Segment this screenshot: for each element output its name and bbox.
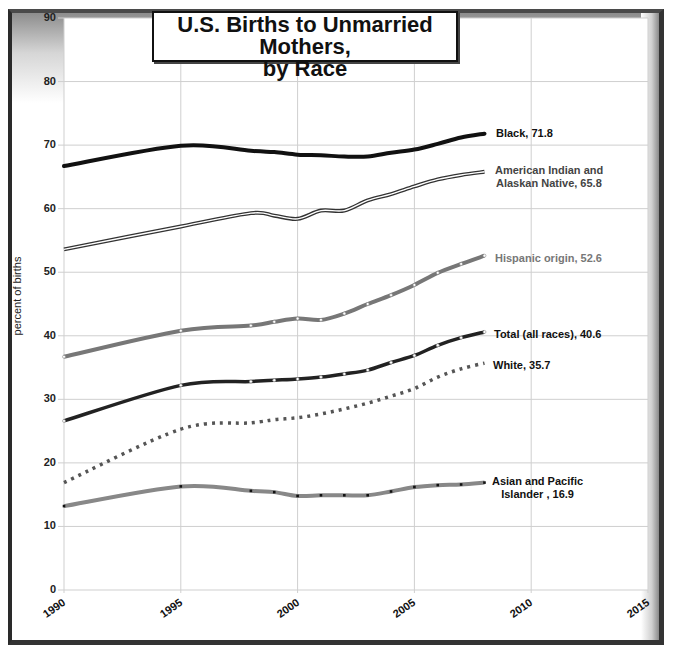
data-point [436, 484, 439, 487]
series-label-black: Black, 71.8 [496, 127, 553, 140]
data-point [320, 494, 323, 497]
y-tick-label: 20 [30, 456, 56, 468]
data-point [343, 372, 346, 375]
data-point [413, 354, 416, 357]
data-point [483, 481, 486, 484]
series-label-asian-line-1: Asian and Pacific [492, 475, 583, 488]
series-label-white: White, 35.7 [493, 359, 550, 372]
data-point [483, 330, 486, 333]
data-point [343, 312, 346, 315]
chart-title: U.S. Births to Unmarried Mothers, by Rac… [152, 11, 458, 62]
chart-title-line-1: U.S. Births to Unmarried Mothers, [154, 14, 456, 58]
y-tick-label: 40 [30, 329, 56, 341]
data-point [413, 486, 416, 489]
y-tick-label: 10 [30, 519, 56, 531]
data-point [436, 271, 439, 274]
data-point [390, 361, 393, 364]
series-label-american-indian-line-1: American Indian and [495, 164, 603, 177]
data-point [390, 294, 393, 297]
data-point [460, 262, 463, 265]
data-point [413, 283, 416, 286]
series-label-total: Total (all races), 40.6 [494, 328, 601, 341]
series-label-hispanic: Hispanic origin, 52.6 [495, 252, 602, 265]
data-point [366, 494, 369, 497]
data-point [180, 485, 183, 488]
data-point [250, 490, 253, 493]
data-point [273, 320, 276, 323]
data-point [249, 380, 252, 383]
y-tick-label: 70 [30, 138, 56, 150]
y-tick-label: 90 [30, 11, 56, 23]
chart-title-line-2: by Race [154, 58, 456, 80]
data-point [63, 419, 66, 422]
y-tick-label: 60 [30, 202, 56, 214]
data-point [296, 377, 299, 380]
data-point [390, 490, 393, 493]
data-point [273, 491, 276, 494]
data-point [296, 317, 299, 320]
y-axis-label: percent of births [11, 257, 23, 336]
gridlines [58, 18, 648, 593]
y-tick-label: 80 [30, 75, 56, 87]
y-tick-label: 50 [30, 265, 56, 277]
data-point [179, 329, 182, 332]
data-point [343, 494, 346, 497]
series-label-asian: Asian and Pacific Islander , 16.9 [492, 475, 583, 501]
data-point [460, 483, 463, 486]
data-point [460, 336, 463, 339]
data-point [249, 324, 252, 327]
series-label-american-indian-line-2: Alaskan Native, 65.8 [495, 177, 603, 190]
data-point [273, 379, 276, 382]
series-label-american-indian: American Indian and Alaskan Native, 65.8 [495, 164, 603, 190]
data-point [63, 355, 66, 358]
y-tick-label: 30 [30, 392, 56, 404]
data-point [319, 318, 322, 321]
data-point [179, 384, 182, 387]
data-point [436, 344, 439, 347]
data-point [366, 369, 369, 372]
data-point [366, 303, 369, 306]
data-point [483, 254, 486, 257]
data-point [319, 376, 322, 379]
series-label-asian-line-2: Islander , 16.9 [492, 488, 583, 501]
y-tick-label: 0 [30, 583, 56, 595]
data-point [63, 505, 66, 508]
data-point [296, 495, 299, 498]
